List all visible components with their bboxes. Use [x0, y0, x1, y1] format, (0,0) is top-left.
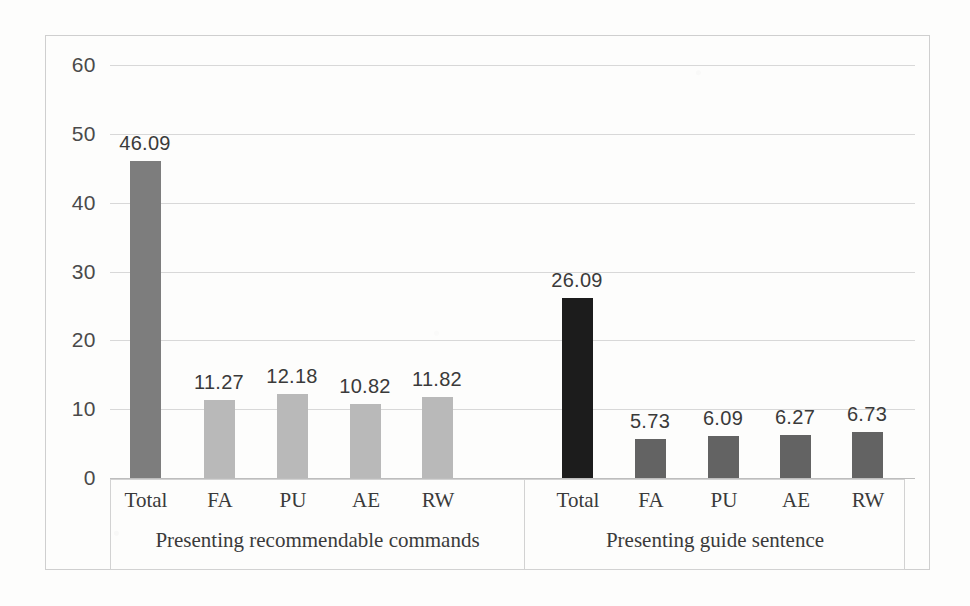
category-tick-label: AE [782, 488, 810, 513]
bar-value-label: 26.09 [551, 269, 603, 292]
bar-value-label: 11.27 [194, 371, 244, 394]
plot-area: 6050403020100 46.0911.2712.1810.8211.822… [110, 65, 915, 478]
category-tick-label: FA [638, 488, 663, 513]
bar: 11.27 [204, 400, 235, 478]
category-tick-label: PU [280, 488, 307, 513]
category-tick-label: PU [711, 488, 738, 513]
bar-chart-figure: 6050403020100 46.0911.2712.1810.8211.822… [0, 0, 970, 606]
y-axis-tick-label: 20 [72, 328, 96, 352]
bar: 46.09 [130, 161, 161, 478]
y-axis-tick-label: 50 [72, 122, 96, 146]
bar-value-label: 12.18 [266, 365, 318, 388]
y-axis-tick-label: 30 [72, 260, 96, 284]
category-tick-label: FA [207, 488, 232, 513]
gridline-20 [110, 340, 915, 341]
category-tick-label: Total [125, 488, 168, 513]
bar: 11.82 [422, 397, 453, 478]
gridline-30 [110, 272, 915, 273]
group-separator [524, 480, 525, 569]
bar-value-label: 46.09 [119, 132, 171, 155]
bar-value-label: 5.73 [630, 410, 670, 433]
category-tick-label: AE [352, 488, 380, 513]
bar: 10.82 [350, 404, 381, 478]
category-tick-label: Total [557, 488, 600, 513]
category-tick-label: RW [852, 488, 885, 513]
bar: 6.73 [852, 432, 883, 478]
bar-value-label: 10.82 [339, 375, 391, 398]
group-axis-label: Presenting recommendable commands [155, 528, 479, 553]
bar-value-label: 11.82 [412, 368, 462, 391]
bar: 26.09 [562, 298, 593, 478]
gridline-60 [110, 65, 915, 66]
bar: 12.18 [277, 394, 308, 478]
gridline-40 [110, 203, 915, 204]
bar-value-label: 6.09 [703, 407, 743, 430]
y-axis-tick-label: 60 [72, 53, 96, 77]
y-axis-tick-label: 0 [84, 466, 96, 490]
bar: 5.73 [635, 439, 666, 478]
y-axis-tick-label: 40 [72, 191, 96, 215]
group-axis-label: Presenting guide sentence [606, 528, 824, 553]
bar-value-label: 6.27 [775, 406, 815, 429]
gridline-50 [110, 134, 915, 135]
y-axis-tick-label: 10 [72, 397, 96, 421]
bar: 6.27 [780, 435, 811, 478]
bar-value-label: 6.73 [847, 403, 887, 426]
category-tick-label: RW [422, 488, 455, 513]
category-axis-box: TotalFAPUAERWPresenting recommendable co… [110, 479, 905, 570]
bar: 6.09 [708, 436, 739, 478]
